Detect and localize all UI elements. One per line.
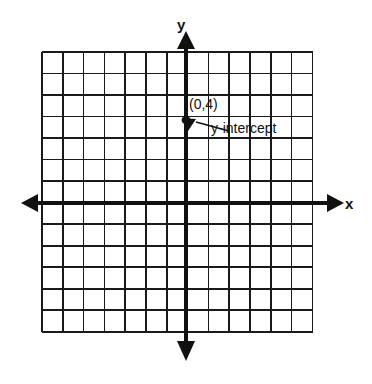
coordinate-grid-svg: [0, 0, 372, 384]
x-axis-label: x: [345, 196, 353, 211]
y-intercept-callout-label: y-intercept: [211, 121, 276, 135]
y-axis: [177, 31, 195, 361]
x-axis: [21, 194, 344, 212]
y-axis-down-arrowhead: [177, 341, 195, 361]
coordinate-plane-figure: y x (0,4) y-intercept: [0, 0, 372, 384]
x-axis-right-arrowhead: [327, 194, 344, 212]
grid-lines: [42, 52, 313, 332]
x-axis-left-arrowhead: [21, 194, 38, 212]
point-coordinate-label: (0,4): [189, 97, 218, 111]
y-axis-label: y: [177, 17, 185, 32]
y-axis-up-arrowhead: [177, 31, 195, 49]
